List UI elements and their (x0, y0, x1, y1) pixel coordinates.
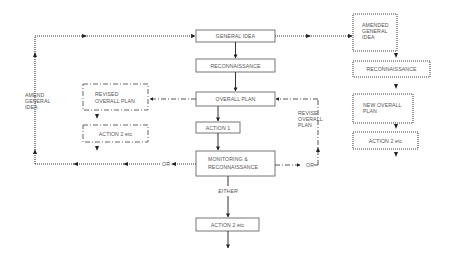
reconnaissance-label: RECONNAISSANCE (210, 63, 261, 69)
main-column: GENERAL IDEA RECONNAISSANCE OVERALL PLAN… (196, 30, 275, 248)
monitoring-label-line2: RECONNAISSANCE (208, 164, 259, 170)
action2-label: ACTION 2 etc (211, 222, 245, 228)
action1-label: ACTION 1 (206, 125, 231, 131)
arrow-left-icon-2 (123, 162, 128, 166)
arrow-down-icon-2 (95, 146, 99, 151)
arrow-left-icon (171, 162, 176, 166)
either-label: EITHER (218, 188, 238, 194)
arrow-up-icon (316, 147, 320, 152)
arrow-right-icon-2 (306, 34, 311, 38)
new-plan-box (353, 94, 413, 123)
flowchart-canvas: GENERAL IDEA RECONNAISSANCE OVERALL PLAN… (0, 0, 453, 268)
monitoring-label-line1: MONITORING & (208, 156, 248, 162)
revised-label-line2: OVERALL PLAN (95, 98, 135, 104)
or-right-label: OR (306, 162, 314, 168)
revise-plan-loop: OR REVISE OVERALL PLAN (275, 99, 323, 168)
arrow-up-icon-2 (33, 149, 37, 154)
right-action2-label: ACTION 2 etc (369, 138, 403, 144)
general-idea-label: GENERAL IDEA (216, 33, 256, 39)
arrow-down-icon-4 (394, 84, 398, 89)
new-plan-label-line2: PLAN (363, 108, 377, 114)
left-action2-label: ACTION 2 etc (99, 131, 133, 137)
right-column: AMENDED GENERAL IDEA RECONNAISSANCE NEW … (353, 14, 430, 157)
revise-label-line3: PLAN (298, 122, 312, 128)
general-to-amended-connector (275, 34, 352, 38)
amend-label-line3: IDEA (25, 104, 38, 110)
or-left-label: OR (162, 161, 170, 167)
revised-label-line1: REVISED (95, 91, 119, 97)
right-reconnaissance-label: RECONNAISSANCE (366, 66, 417, 72)
arrow-right-icon (82, 34, 87, 38)
arrow-up-icon-3 (33, 52, 37, 57)
revised-plan-box (83, 84, 148, 110)
arrow-down-icon (95, 114, 99, 119)
arrow-down-icon-6 (394, 152, 398, 157)
revised-plan-branch: REVISED OVERALL PLAN ACTION 2 etc (83, 84, 196, 151)
arrow-down-icon-3 (394, 53, 398, 58)
overall-plan-label: OVERALL PLAN (216, 96, 256, 102)
amended-label-line3: IDEA (362, 34, 375, 40)
arrow-left-icon-3 (73, 162, 78, 166)
arrow-down-icon-5 (394, 124, 398, 129)
